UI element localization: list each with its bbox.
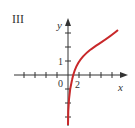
curve: [68, 30, 118, 125]
x-axis-arrow-icon: [120, 72, 128, 78]
graph: III y x 0 2 1: [0, 0, 135, 128]
y-axis-label: y: [56, 19, 62, 31]
y-tick-label: 1: [58, 56, 63, 67]
x-axis-label: x: [117, 81, 123, 93]
origin-label: 0: [58, 78, 63, 89]
y-axis-arrow-icon: [65, 18, 71, 26]
panel-label: III: [12, 12, 24, 26]
x-tick-label: 2: [75, 79, 80, 90]
